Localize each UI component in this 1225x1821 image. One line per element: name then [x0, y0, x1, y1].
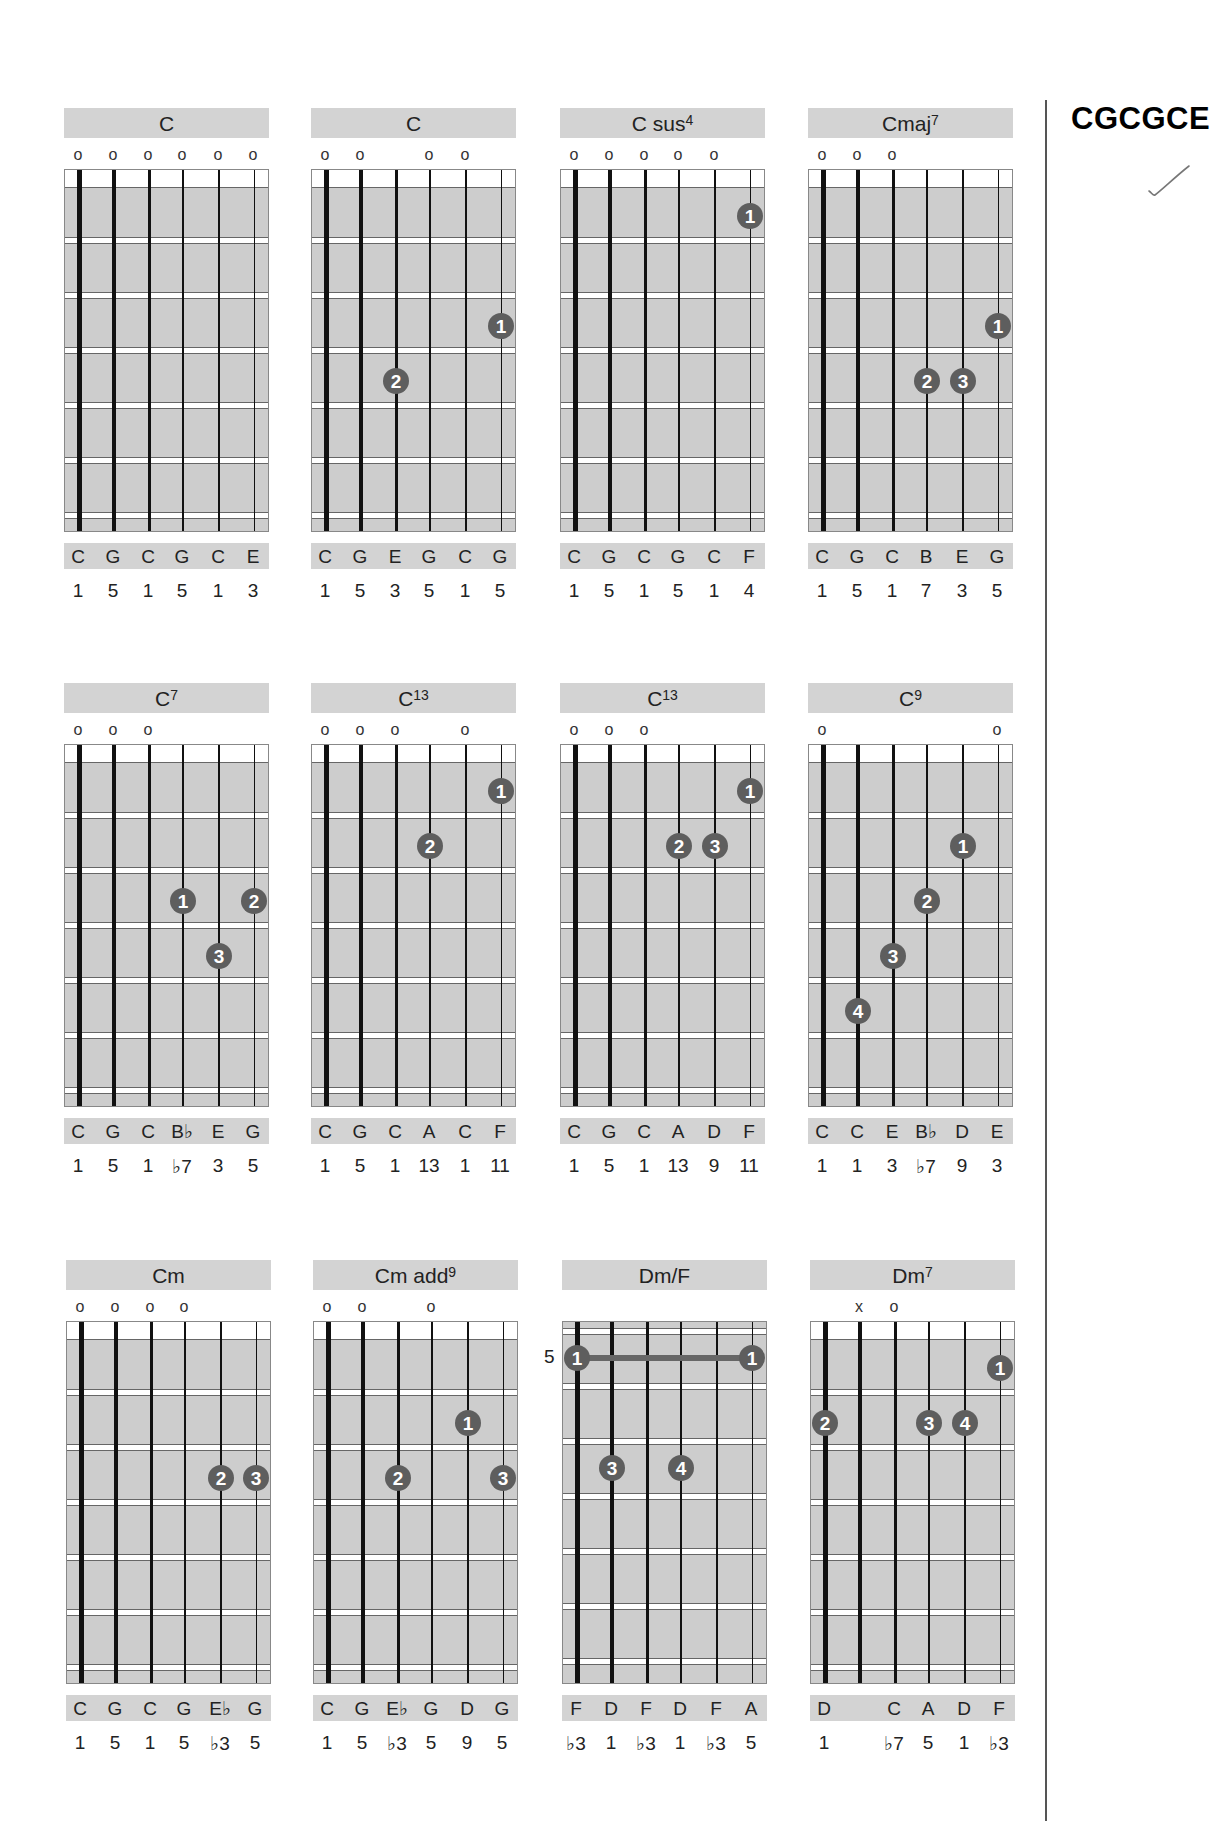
note-name: G	[353, 1118, 368, 1146]
note-name: C	[637, 543, 651, 571]
fret-line	[809, 977, 1012, 984]
note-name: C	[885, 543, 899, 571]
fret-line	[561, 292, 764, 299]
guitar-string	[324, 170, 329, 531]
interval-label: 1	[887, 580, 898, 602]
interval-label: 7	[921, 580, 932, 602]
fret-line	[65, 512, 268, 519]
note-names-bar: CGCACF	[311, 1118, 516, 1144]
fret-line	[809, 812, 1012, 819]
interval-label: 1	[569, 1155, 580, 1177]
finger-dot: 1	[488, 778, 514, 804]
checkmark-icon	[1147, 163, 1191, 199]
note-name: D	[955, 1118, 969, 1146]
fret-line	[561, 977, 764, 984]
interval-row: 151♭735	[64, 1155, 269, 1181]
guitar-string	[79, 1322, 84, 1683]
fret-line	[561, 1087, 764, 1094]
guitar-string	[77, 745, 82, 1106]
interval-row: 1♭751♭3	[810, 1732, 1015, 1758]
guitar-string	[928, 1322, 930, 1683]
note-name: A	[423, 1118, 436, 1146]
chord-name: C sus4	[560, 108, 765, 138]
open-string-marker: o	[888, 146, 897, 164]
fret-line	[561, 237, 764, 244]
fret-line	[809, 402, 1012, 409]
interval-row: ♭31♭31♭35	[562, 1732, 767, 1758]
open-string-marker: o	[109, 146, 118, 164]
note-name: A	[922, 1695, 935, 1723]
guitar-string	[644, 745, 647, 1106]
nut	[65, 745, 268, 763]
fret-line	[809, 347, 1012, 354]
interval-label: 1	[322, 1732, 333, 1754]
note-name: C	[388, 1118, 402, 1146]
chord-name: Cm add9	[313, 1260, 518, 1290]
interval-label: 9	[462, 1732, 473, 1754]
guitar-string	[429, 745, 431, 1106]
note-name: C	[707, 543, 721, 571]
note-name: G	[106, 543, 121, 571]
fret-line	[809, 922, 1012, 929]
guitar-string	[962, 745, 964, 1106]
note-name: G	[108, 1695, 123, 1723]
interval-label: 5	[495, 580, 506, 602]
interval-label: 1	[145, 1732, 156, 1754]
interval-label: 13	[667, 1155, 688, 1177]
finger-dot: 3	[490, 1465, 516, 1491]
note-name: C	[815, 1118, 829, 1146]
finger-dot: 1	[564, 1345, 590, 1371]
chord-name-superscript: 7	[925, 1264, 933, 1280]
fret-line	[561, 922, 764, 929]
interval-label: 5	[673, 580, 684, 602]
note-name: E	[212, 1118, 225, 1146]
interval-label: 5	[357, 1732, 368, 1754]
fret-line	[563, 1383, 766, 1390]
guitar-string	[646, 1322, 649, 1683]
open-string-markers: ooo	[64, 721, 269, 741]
interval-label: 1	[143, 580, 154, 602]
open-string-marker: o	[180, 1298, 189, 1316]
interval-label: ♭3	[636, 1732, 656, 1755]
nut	[809, 170, 1012, 188]
guitar-string	[220, 1322, 222, 1683]
note-name: A	[672, 1118, 685, 1146]
note-name: G	[424, 1695, 439, 1723]
finger-dot: 1	[737, 203, 763, 229]
guitar-string	[821, 170, 826, 531]
fret-line	[811, 1554, 1014, 1561]
fret-line	[67, 1609, 270, 1616]
finger-dot: 4	[668, 1455, 694, 1481]
interval-label: 1	[390, 1155, 401, 1177]
interval-label: 1	[143, 1155, 154, 1177]
guitar-string	[962, 170, 964, 531]
finger-dot: 1	[737, 778, 763, 804]
fret-line	[811, 1389, 1014, 1396]
fretboard: 123	[313, 1321, 518, 1684]
fret-line	[561, 347, 764, 354]
open-string-marker: o	[391, 721, 400, 739]
guitar-string	[395, 745, 398, 1106]
guitar-string	[856, 170, 860, 531]
fret-line	[563, 1603, 766, 1610]
fret-line	[67, 1554, 270, 1561]
open-string-marker: o	[427, 1298, 436, 1316]
note-name: G	[602, 1118, 617, 1146]
open-string-markers	[562, 1298, 767, 1318]
guitar-string	[326, 1322, 331, 1683]
fret-line	[312, 347, 515, 354]
fret-line	[563, 1438, 766, 1445]
open-string-marker: o	[146, 1298, 155, 1316]
open-string-marker: o	[890, 1298, 899, 1316]
interval-label: 9	[709, 1155, 720, 1177]
fret-line	[65, 292, 268, 299]
note-name: G	[175, 543, 190, 571]
interval-row: 151514	[560, 580, 765, 606]
fret-line	[314, 1554, 517, 1561]
note-name: B♭	[915, 1118, 937, 1146]
interval-label: 5	[604, 1155, 615, 1177]
fret-line	[67, 1664, 270, 1671]
guitar-string	[218, 170, 220, 531]
guitar-string	[680, 1322, 682, 1683]
chord-name-text: Dm	[892, 1264, 925, 1287]
